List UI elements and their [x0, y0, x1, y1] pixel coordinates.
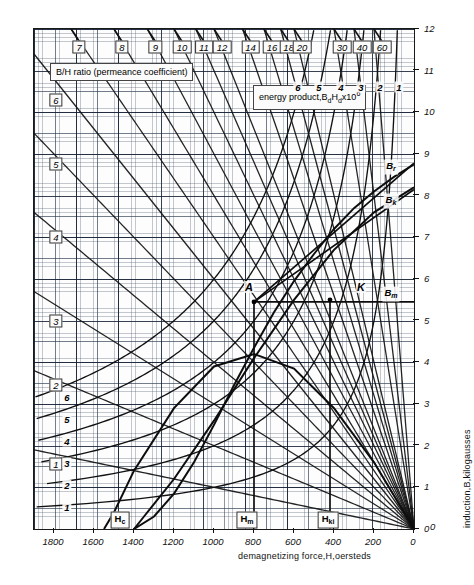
y-tick-label-5: 5	[424, 314, 429, 325]
Hm-sub: m	[247, 518, 253, 525]
bh-ratio-left-label-2: 2	[49, 379, 62, 392]
x-tick-label-1800: 1800	[42, 536, 63, 547]
bh-ratio-label-10: 10	[173, 41, 192, 54]
x-tick-mark	[133, 528, 134, 533]
energy-product-left-label-4: 4	[62, 436, 71, 447]
x-tick-label-1000: 1000	[202, 536, 223, 547]
y-tick-mark	[413, 111, 419, 112]
bh-ratio-left-label-5: 5	[49, 158, 62, 171]
point-label-A: A	[244, 281, 254, 293]
x-tick-label-800: 800	[245, 536, 261, 547]
energy-product-top-label-2: 2	[375, 82, 384, 93]
Hc-sub: c	[121, 518, 125, 525]
y-tick-mark	[413, 153, 419, 154]
bh-ratio-left-label-3: 3	[49, 314, 62, 327]
x-axis-title: demagnetizing force,H,oersteds	[238, 551, 371, 561]
Bk-letter: B	[386, 194, 393, 205]
energy-product-left-label-1: 1	[62, 502, 71, 513]
label-Bm: Bm	[382, 287, 399, 302]
energy-product-left-label-6: 6	[62, 392, 71, 403]
bh-ratio-left-label-1: 1	[49, 458, 62, 471]
bh-ratio-label-40: 40	[353, 41, 372, 54]
y-tick-mark	[413, 69, 419, 70]
y-tick-label-12: 12	[424, 23, 435, 34]
y-tick-label-1: 1	[424, 481, 429, 492]
point-label-K: K	[356, 281, 366, 293]
label-Hc: Hc	[111, 512, 130, 529]
y-tick-mark	[413, 403, 419, 404]
Bk-sub: k	[392, 199, 396, 206]
y-tick-label-6: 6	[424, 273, 429, 284]
y-tick-mark	[413, 278, 419, 279]
bh-ratio-label-7: 7	[72, 41, 85, 54]
y-tick-mark	[413, 194, 419, 195]
y-tick-mark	[413, 28, 419, 29]
Br-sub: r	[393, 165, 396, 172]
chart-root: B/H ratio (permeance coefficient) energy…	[0, 0, 474, 585]
energy-product-left-label-3: 3	[62, 458, 71, 469]
bh-ratio-label-14: 14	[241, 41, 260, 54]
x-tick-mark	[93, 528, 94, 533]
energy-product-top-label-5: 5	[314, 82, 323, 93]
Hc-letter: H	[115, 513, 122, 524]
label-Br: Br	[384, 160, 398, 175]
bh-ratio-banner-text: B/H ratio (permeance coefficient)	[56, 67, 187, 77]
x-tick-mark	[53, 528, 54, 533]
x-tick-label-400: 400	[325, 536, 341, 547]
x-tick-mark	[373, 528, 374, 533]
energy-product-banner: energy product,BdHdx106	[253, 85, 366, 110]
y-tick-label-10: 10	[424, 106, 435, 117]
energy-product-top-label-6: 6	[293, 82, 302, 93]
bh-ratio-label-9: 9	[149, 41, 162, 54]
bh-ratio-label-20: 20	[293, 41, 312, 54]
y-tick-label-0: 0	[424, 523, 429, 534]
y-tick-mark	[413, 361, 419, 362]
bh-ratio-label-30: 30	[333, 41, 352, 54]
energy-banner-pre: energy product,B	[259, 92, 328, 102]
x-tick-label-1400: 1400	[122, 536, 143, 547]
bh-ratio-banner: B/H ratio (permeance coefficient)	[50, 63, 193, 81]
Bm-sub: m	[391, 292, 397, 299]
label-Hki: Hki	[318, 512, 339, 529]
bh-ratio-label-12: 12	[213, 41, 232, 54]
label-Hm: Hm	[236, 512, 257, 529]
energy-product-top-label-1: 1	[394, 82, 403, 93]
label-Bk: Bk	[384, 194, 399, 209]
plot-area: B/H ratio (permeance coefficient) energy…	[33, 28, 415, 530]
x-tick-label-0: 0	[410, 536, 415, 547]
Hki-sub: ki	[329, 518, 335, 525]
energy-product-left-label-5: 5	[62, 414, 71, 425]
y-tick-label-11: 11	[424, 64, 434, 75]
energy-banner-post: x10	[342, 92, 357, 102]
Hki-letter: H	[322, 513, 329, 524]
y-tick-label-4: 4	[424, 356, 429, 367]
origin-label: 0	[430, 521, 435, 532]
y-tick-label-3: 3	[424, 398, 429, 409]
x-tick-mark	[293, 528, 294, 533]
energy-product-left-label-2: 2	[62, 480, 71, 491]
x-tick-mark	[173, 528, 174, 533]
Br-letter: B	[386, 160, 393, 171]
y-tick-label-9: 9	[424, 148, 429, 159]
Hm-letter: H	[240, 513, 247, 524]
x-tick-label-200: 200	[365, 536, 381, 547]
Bm-letter: B	[384, 287, 391, 298]
y-tick-mark	[413, 236, 419, 237]
y-tick-label-2: 2	[424, 439, 429, 450]
energy-product-top-label-3: 3	[356, 82, 365, 93]
y-tick-mark	[413, 319, 419, 320]
bh-ratio-left-label-6: 6	[49, 93, 62, 106]
x-tick-mark	[333, 528, 334, 533]
x-tick-mark	[253, 528, 254, 533]
y-tick-label-8: 8	[424, 189, 429, 200]
x-tick-label-1600: 1600	[82, 536, 103, 547]
y-axis-title: induction,B,kilogausses	[462, 429, 472, 528]
x-tick-mark	[413, 528, 414, 533]
bh-ratio-left-label-4: 4	[49, 231, 62, 244]
x-tick-label-1200: 1200	[162, 536, 183, 547]
x-tick-label-600: 600	[285, 536, 301, 547]
y-tick-label-7: 7	[424, 231, 429, 242]
y-tick-mark	[413, 444, 419, 445]
x-tick-mark	[213, 528, 214, 533]
y-tick-mark	[413, 528, 419, 529]
